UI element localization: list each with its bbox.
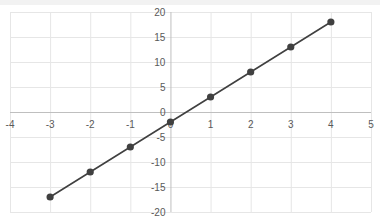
- data-point-marker: [47, 193, 54, 200]
- y-tick-label: -15: [151, 182, 166, 193]
- y-tick-label: 20: [154, 7, 166, 18]
- data-point-marker: [247, 68, 254, 75]
- x-tick-label: 5: [368, 119, 374, 130]
- data-point-marker: [327, 18, 334, 25]
- data-point-marker: [167, 118, 174, 125]
- y-tick-label: -5: [157, 132, 166, 143]
- x-tick-label: -3: [46, 119, 55, 130]
- x-tick-label: 1: [208, 119, 214, 130]
- y-tick-label: -20: [151, 207, 166, 218]
- y-tick-label: 10: [154, 57, 166, 68]
- x-tick-labels: -4-3-2-1012345: [6, 119, 375, 130]
- data-point-marker: [287, 43, 294, 50]
- line-chart: -20-15-10-505101520 -4-3-2-1012345: [0, 0, 380, 222]
- x-tick-label: 4: [328, 119, 334, 130]
- x-tick-label: -4: [6, 119, 15, 130]
- y-tick-label: 0: [160, 107, 166, 118]
- data-point-marker: [127, 143, 134, 150]
- x-tick-label: 3: [288, 119, 294, 130]
- x-tick-label: -2: [86, 119, 95, 130]
- x-tick-label: -1: [126, 119, 135, 130]
- y-tick-label: -10: [151, 157, 166, 168]
- y-tick-label: 15: [154, 32, 166, 43]
- data-point-marker: [87, 168, 94, 175]
- y-tick-label: 5: [160, 82, 166, 93]
- x-tick-label: 2: [248, 119, 254, 130]
- data-point-marker: [207, 93, 214, 100]
- axes: [10, 12, 371, 212]
